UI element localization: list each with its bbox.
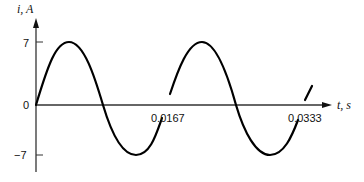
y-axis-arrow-icon (33, 18, 39, 28)
x-axis-label: t, s (337, 99, 351, 111)
y-tick-label-7: 7 (23, 37, 29, 49)
x-axis-arrow-icon (322, 102, 332, 108)
current-waveform (36, 42, 312, 155)
y-tick-label-0: 0 (23, 99, 29, 111)
y-tick-label-neg7: −7 (14, 149, 27, 161)
y-axis-label: i, A (17, 3, 33, 15)
x-tick-label-0167: 0.0167 (151, 112, 185, 124)
x-tick-label-0333: 0.0333 (288, 112, 322, 124)
chart-plot (0, 0, 364, 182)
